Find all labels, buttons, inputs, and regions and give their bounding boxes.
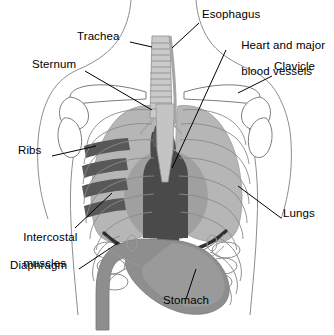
label-sternum: Sternum [32, 58, 76, 71]
leader-trachea [130, 42, 152, 47]
leader-esophagus [172, 23, 199, 48]
label-lungs: Lungs [283, 207, 315, 220]
arm-right-outline [281, 131, 291, 219]
label-ribs: Ribs [18, 144, 41, 157]
label-intercostal-muscles: Intercostal muscles [10, 218, 77, 283]
label-trachea: Trachea [77, 30, 119, 43]
label-diaphragm: Diaphragm [10, 259, 67, 272]
label-esophagus: Esophagus [202, 8, 260, 21]
anatomy-diagram: Esophagus Heart and major blood vessels … [0, 0, 334, 335]
label-heart-and-major-blood-vessels: Heart and major blood vessels [228, 26, 325, 91]
costal-cartilage-right-1 [212, 242, 240, 258]
label-stomach: Stomach [163, 294, 209, 307]
label-heart-line1: Heart and major [241, 39, 325, 51]
label-clavicle: Clavicle [274, 60, 315, 73]
leader-lungs [238, 186, 281, 218]
label-intercostal-line1: Intercostal [23, 231, 77, 243]
stomach-group [96, 239, 229, 330]
